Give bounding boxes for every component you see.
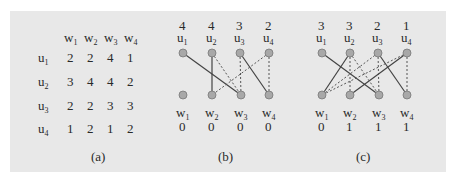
u1-label: u1 [316, 31, 327, 46]
caption-c: (c) [356, 150, 370, 163]
panel-b-dashed-edges [212, 53, 269, 95]
w2-value: 1 [346, 120, 353, 133]
caption-b: (b) [218, 150, 233, 163]
panel-c-dashed-edges [322, 53, 407, 95]
w3-value: 1 [375, 120, 382, 133]
u1-label: u1 [177, 31, 188, 46]
u3-label: u3 [372, 31, 383, 46]
u3-label: u3 [234, 31, 245, 46]
w4-value: 1 [403, 120, 410, 133]
u4-label: u4 [263, 31, 274, 46]
u4-label: u4 [401, 31, 412, 46]
w1-value: 0 [318, 120, 325, 133]
w2-value: 0 [208, 120, 215, 133]
w1-value: 0 [179, 120, 186, 133]
u2-label: u2 [206, 31, 217, 46]
w4-value: 0 [265, 120, 272, 133]
w3-value: 0 [237, 120, 244, 133]
u2-label: u2 [344, 31, 355, 46]
